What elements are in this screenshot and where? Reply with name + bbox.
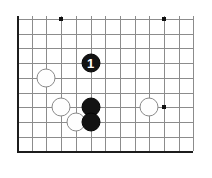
board-stones: 1 [0,0,212,178]
white-stone-left-lower[interactable] [52,98,71,117]
go-board-diagram: 1 [0,0,212,178]
white-stone-left-upper[interactable] [37,68,56,87]
black-stone-center-lower[interactable] [81,112,100,131]
move-number-label: 1 [87,57,94,70]
white-stone-right[interactable] [140,98,159,117]
black-stone-move-1[interactable]: 1 [81,54,100,73]
